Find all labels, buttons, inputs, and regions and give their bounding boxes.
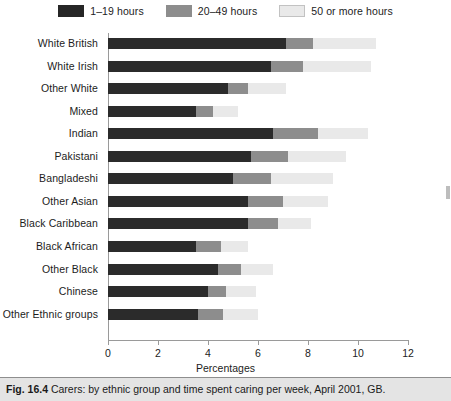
bar-row	[108, 106, 238, 117]
bar-segment	[288, 151, 346, 162]
bar-segment	[273, 128, 318, 139]
bar-row	[108, 218, 311, 229]
x-axis-tick	[158, 340, 159, 345]
x-axis-tick	[258, 340, 259, 345]
figure-number: Fig. 16.4	[6, 383, 48, 395]
bar-row	[108, 128, 368, 139]
category-label: White British	[38, 38, 98, 49]
bar-segment	[248, 83, 286, 94]
bar-row	[108, 61, 371, 72]
bar-row	[108, 264, 273, 275]
legend-label-50-or-more-hours: 50 or more hours	[311, 5, 393, 17]
category-label: Chinese	[59, 286, 98, 297]
legend-swatch-icon-20-49-hours	[166, 5, 192, 17]
x-axis-tick-label: 8	[305, 347, 311, 359]
chart-legend: 1–19 hours 20–49 hours 50 or more hours	[0, 3, 451, 19]
bar-segment	[198, 309, 223, 320]
x-axis-tick-label: 12	[402, 347, 414, 359]
bar-row	[108, 173, 333, 184]
legend-label-20-49-hours: 20–49 hours	[198, 5, 257, 17]
bar-segment	[196, 241, 221, 252]
bar-segment	[213, 106, 238, 117]
bar-segment	[318, 128, 368, 139]
legend-swatch-icon-50-or-more-hours	[279, 5, 305, 17]
category-label: Other Black	[42, 264, 98, 275]
category-label: Pakistani	[54, 151, 98, 162]
bar-segment	[108, 38, 286, 49]
bar-segment	[226, 286, 256, 297]
bar-segment	[108, 151, 251, 162]
bar-segment	[108, 128, 273, 139]
x-axis-tick-label: 10	[352, 347, 364, 359]
x-axis-tick	[208, 340, 209, 345]
bar-segment	[218, 264, 241, 275]
bar-row	[108, 196, 328, 207]
x-axis-tick-label: 2	[155, 347, 161, 359]
legend-swatch-icon-1-19-hours	[58, 5, 84, 17]
category-label: Other Asian	[42, 196, 98, 207]
bar-segment	[108, 196, 248, 207]
x-axis-tick	[108, 340, 109, 345]
x-axis-tick-label: 0	[105, 347, 111, 359]
x-axis-tick-label: 4	[205, 347, 211, 359]
x-axis-tick	[408, 340, 409, 345]
category-label: Black Caribbean	[19, 218, 98, 229]
bar-segment	[223, 309, 258, 320]
x-axis-title: Percentages	[0, 362, 451, 374]
figure-caption: Fig. 16.4 Carers: by ethnic group and ti…	[6, 383, 385, 395]
bar-segment	[233, 173, 271, 184]
bar-segment	[108, 83, 228, 94]
bar-segment	[221, 241, 249, 252]
figure-container: 1–19 hours 20–49 hours 50 or more hours …	[0, 0, 451, 401]
legend-item-20-49-hours: 20–49 hours	[166, 5, 257, 17]
bar-row	[108, 151, 346, 162]
category-label: White Irish	[47, 61, 98, 72]
category-label: Black African	[36, 241, 98, 252]
bar-segment	[108, 309, 198, 320]
bar-segment	[196, 106, 214, 117]
bar-segment	[248, 218, 278, 229]
bar-segment	[303, 61, 371, 72]
bar-row	[108, 241, 248, 252]
bar-segment	[108, 106, 196, 117]
category-label: Bangladeshi	[39, 173, 98, 184]
bar-segment	[251, 151, 289, 162]
bar-segment	[286, 38, 314, 49]
category-label: Other Ethnic groups	[3, 309, 98, 320]
bar-row	[108, 83, 286, 94]
x-axis-tick-label: 6	[255, 347, 261, 359]
category-label: Indian	[69, 128, 98, 139]
category-label: Mixed	[69, 106, 98, 117]
bar-segment	[241, 264, 274, 275]
x-axis-tick	[308, 340, 309, 345]
bar-segment	[208, 286, 226, 297]
bar-row	[108, 309, 258, 320]
bar-row	[108, 286, 256, 297]
bar-segment	[248, 196, 283, 207]
bar-segment	[271, 61, 304, 72]
bar-segment	[108, 173, 233, 184]
x-axis-tick	[358, 340, 359, 345]
page-edge-artifact	[446, 186, 450, 199]
bar-segment	[283, 196, 328, 207]
legend-item-50-or-more-hours: 50 or more hours	[279, 5, 393, 17]
bar-segment	[313, 38, 376, 49]
legend-label-1-19-hours: 1–19 hours	[90, 5, 144, 17]
legend-item-1-19-hours: 1–19 hours	[58, 5, 144, 17]
category-label: Other White	[41, 83, 98, 94]
bar-segment	[271, 173, 334, 184]
bar-segment	[108, 61, 271, 72]
bar-segment	[108, 218, 248, 229]
bar-segment	[108, 241, 196, 252]
bar-segment	[108, 264, 218, 275]
bar-segment	[278, 218, 311, 229]
bar-segment	[228, 83, 248, 94]
figure-caption-text: Carers: by ethnic group and time spent c…	[51, 383, 385, 395]
bar-row	[108, 38, 376, 49]
bar-segment	[108, 286, 208, 297]
